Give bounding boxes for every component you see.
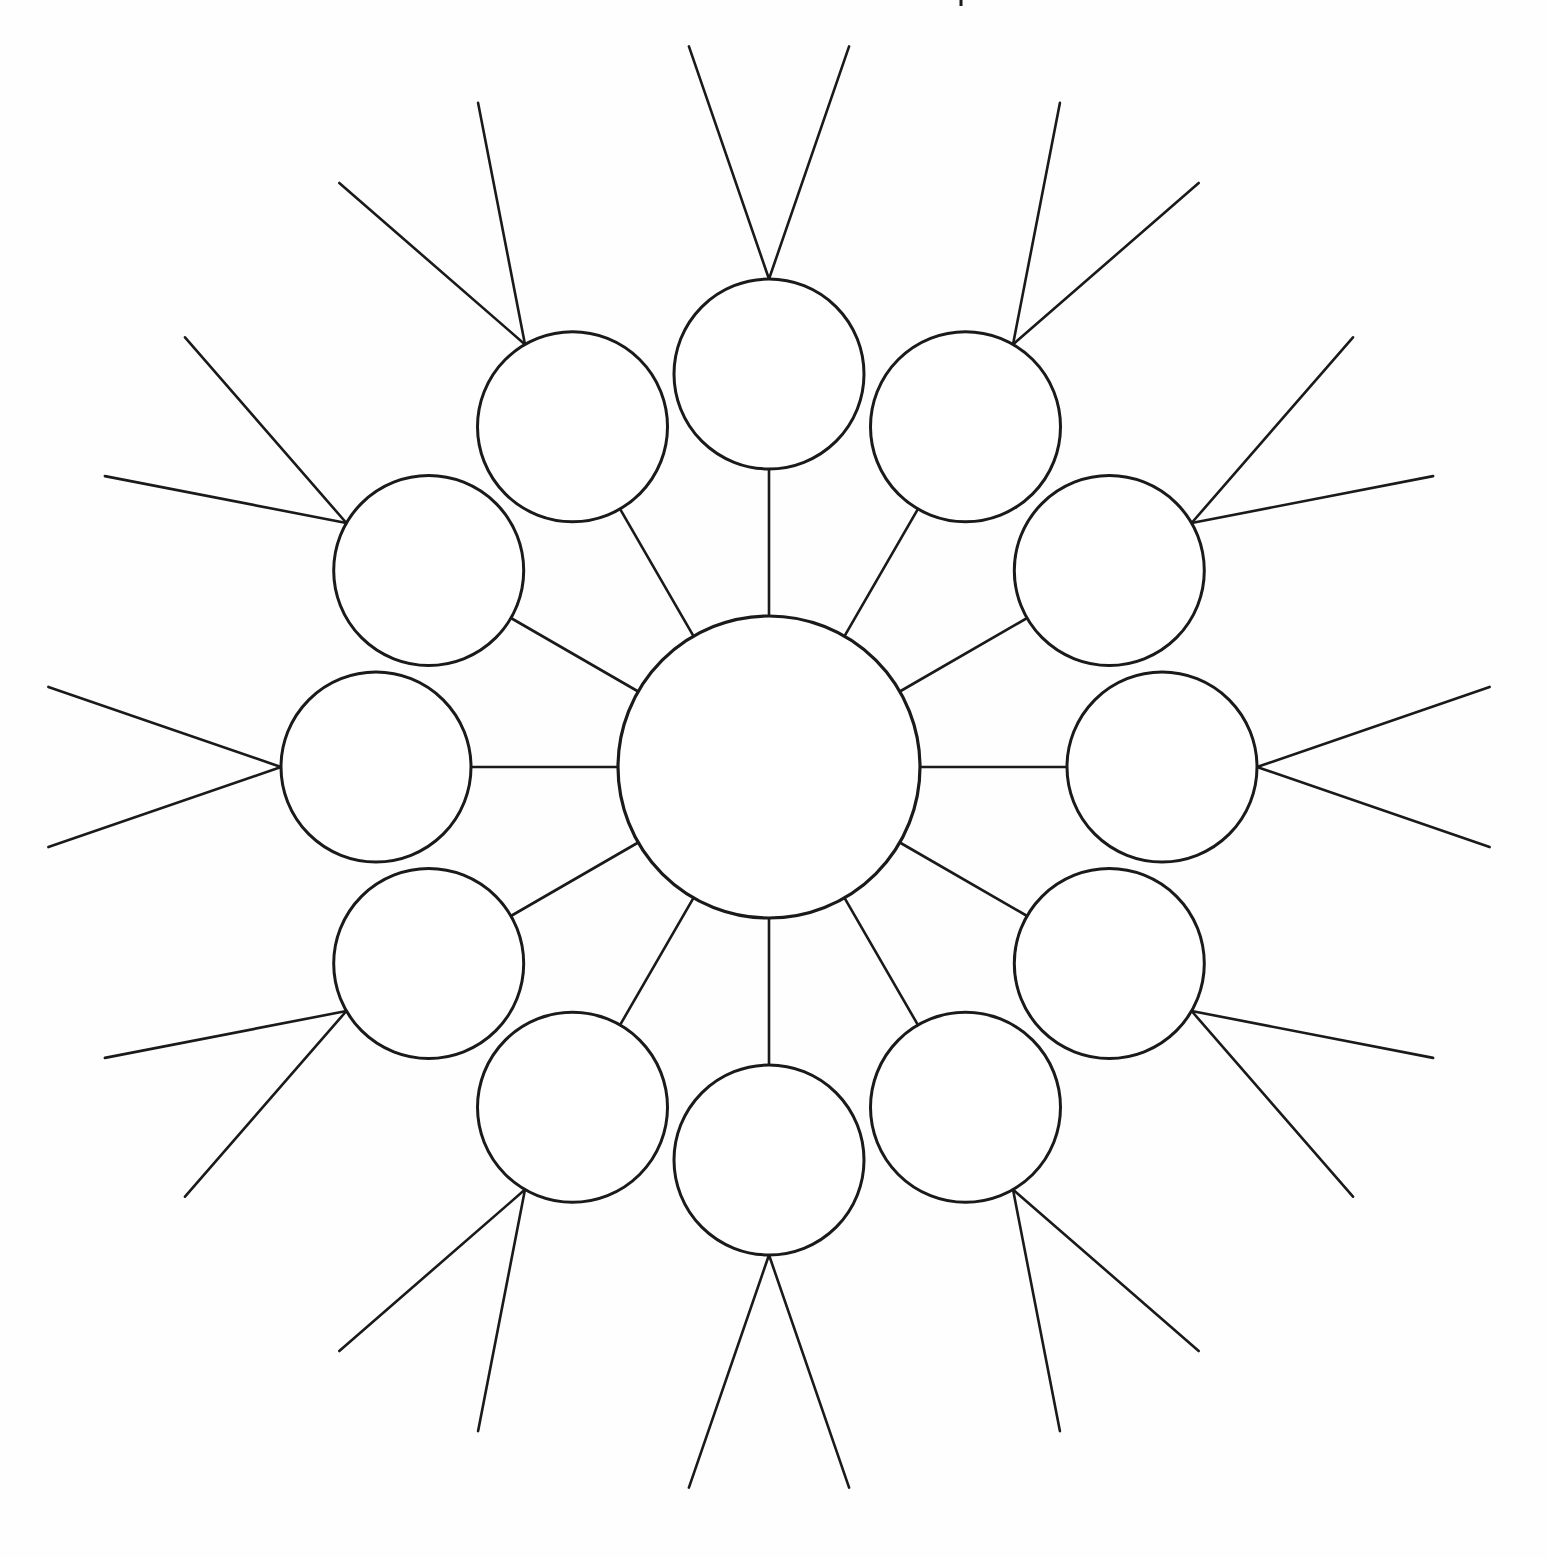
diagram-canvas	[0, 0, 1547, 1558]
bubble-lower-left[interactable]	[334, 869, 524, 1059]
bubble-upper-right[interactable]	[1014, 476, 1204, 666]
bubble-bottom-right[interactable]	[871, 1012, 1061, 1202]
spoke-bubble-bottom-left	[620, 898, 694, 1025]
ray-bubble-top-a	[689, 46, 769, 279]
bubble-upper-left[interactable]	[334, 476, 524, 666]
spoke-bubble-top-right	[845, 509, 919, 636]
spoke-bubble-lower-left	[511, 843, 638, 917]
bubble-lower-right[interactable]	[1014, 869, 1204, 1059]
ray-bubble-right-a	[1257, 687, 1490, 767]
bubble-right[interactable]	[1067, 672, 1257, 862]
bubble-top-left[interactable]	[478, 332, 668, 522]
spoke-bubble-upper-left	[511, 618, 638, 692]
ray-bubble-left-a	[48, 767, 281, 847]
radial-bubble-map-svg	[0, 0, 1547, 1558]
spoke-bubble-top-left	[620, 509, 694, 636]
hub-layer	[618, 616, 920, 918]
ray-bubble-right-b	[1257, 767, 1490, 847]
spoke-bubble-upper-right	[900, 618, 1027, 692]
ray-bubble-top-b	[769, 46, 849, 279]
ray-bubble-bottom-b	[689, 1255, 769, 1488]
ray-bubble-left-b	[48, 687, 281, 767]
bubble-left[interactable]	[281, 672, 471, 862]
spoke-bubble-bottom-right	[845, 898, 919, 1025]
bubble-top-right[interactable]	[871, 332, 1061, 522]
bubble-bottom[interactable]	[674, 1065, 864, 1255]
bubble-top[interactable]	[674, 279, 864, 469]
central-bubble[interactable]	[618, 616, 920, 918]
spoke-bubble-lower-right	[900, 843, 1027, 917]
ray-bubble-bottom-a	[769, 1255, 849, 1488]
bubble-bottom-left[interactable]	[478, 1012, 668, 1202]
